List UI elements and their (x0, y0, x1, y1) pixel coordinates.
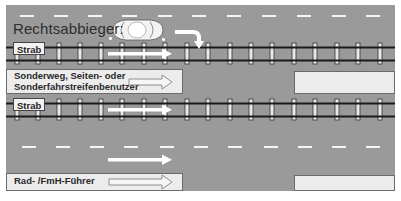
outline-arrow-icon (128, 74, 174, 90)
straight-arrow-icon (108, 49, 172, 60)
special-path-label-line2: Sonderfahrstreifenbenutzer (14, 82, 139, 93)
bike-lane-label: Rad- /FmH-Führer (14, 176, 95, 187)
special-path-lane-box-right (294, 71, 395, 94)
track-label-1: Strab (13, 42, 45, 55)
special-path-label-line1: Sonderweg, Seiten- oder (14, 71, 125, 82)
outline-arrow-icon (108, 174, 174, 190)
right-turn-arrow-icon (175, 32, 199, 42)
tram-track-2 (6, 99, 395, 120)
bike-lane-box-right (294, 175, 395, 191)
straight-arrow-icon (108, 155, 172, 166)
diagram-title: Rechtsabbieger: (13, 20, 124, 37)
track-label-2: Strab (13, 98, 45, 111)
straight-arrow-icon (108, 105, 172, 116)
